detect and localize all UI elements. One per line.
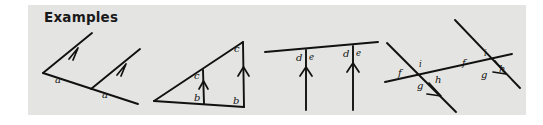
fig1-ray-1	[43, 33, 92, 73]
fig4-left-angle-label-g: g	[417, 80, 423, 91]
diagram-layer: a a c b c b	[0, 0, 543, 125]
fig2-interior-vertical	[203, 70, 204, 104]
fig4-left-angle-label-f: f	[397, 67, 404, 78]
fig2-angle-label-c-2: c	[234, 43, 240, 54]
fig2-angle-label-b-1: b	[194, 92, 200, 103]
fig4-right-angle-label-h: h	[499, 63, 505, 74]
fig1-angle-label-a-1: a	[55, 74, 61, 85]
figure-2-group: c b c b	[154, 42, 249, 107]
fig3-angle-label-e-1: e	[309, 52, 314, 62]
fig3-slanted-line	[265, 42, 378, 52]
fig3-angle-label-e-2: e	[356, 48, 361, 58]
fig4-right-angle-label-g: g	[481, 69, 487, 80]
fig4-left-angle-label-i: i	[419, 59, 422, 69]
fig1-ray-2	[91, 49, 140, 89]
figure-4-group: f i g h f i g h	[385, 20, 520, 112]
fig2-angle-label-b-2: b	[233, 95, 239, 106]
fig1-angle-label-a-2: a	[102, 89, 108, 100]
examples-figure: Examples a a	[0, 0, 543, 125]
figure-3-group: d e d e	[265, 42, 378, 110]
fig4-left-angle-label-h: h	[435, 74, 441, 85]
figure-1-group: a a	[43, 33, 140, 104]
fig4-right-angle-label-f: f	[461, 57, 468, 68]
fig2-triangle-right-side	[243, 42, 244, 107]
fig3-angle-label-d-2: d	[343, 48, 349, 59]
fig4-horizontal-line	[385, 54, 512, 82]
fig4-right-angle-label-i: i	[484, 48, 487, 58]
fig2-angle-label-c-1: c	[194, 70, 200, 81]
fig3-angle-label-d-1: d	[296, 52, 302, 63]
